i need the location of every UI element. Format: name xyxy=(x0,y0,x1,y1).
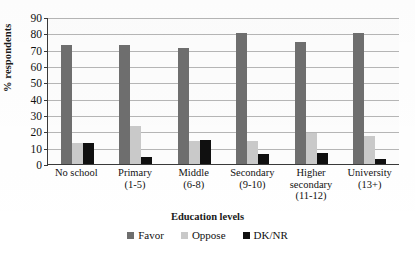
y-axis-tick-label: 70 xyxy=(31,44,43,56)
y-axis-tick-label: 40 xyxy=(31,93,43,105)
bar-group xyxy=(224,18,283,164)
bar-group xyxy=(107,18,166,164)
bar-dknr xyxy=(83,143,94,164)
bar-favor xyxy=(295,42,306,165)
bar-favor xyxy=(236,33,247,164)
y-axis-tick-label: 30 xyxy=(31,110,43,122)
chart-legend: FavorOpposeDK/NR xyxy=(0,229,415,241)
legend-label: Favor xyxy=(138,229,164,241)
plot-area: 0102030405060708090 xyxy=(47,18,399,165)
bar-chart: % respondents 0102030405060708090 No sch… xyxy=(0,0,415,253)
bar-oppose xyxy=(364,136,375,164)
y-axis-tick-label: 60 xyxy=(31,61,43,73)
legend-swatch-icon xyxy=(127,232,134,239)
bar-oppose xyxy=(130,126,141,164)
bar-oppose xyxy=(306,133,317,164)
bar-group xyxy=(165,18,224,164)
x-axis-tick-label: University(13+) xyxy=(340,167,399,202)
x-axis-tick-label: Secondary(9-10) xyxy=(223,167,282,202)
y-axis-tick-label: 80 xyxy=(31,28,43,40)
legend-item: Oppose xyxy=(181,229,226,241)
x-axis-tick-label: Middle(6-8) xyxy=(164,167,223,202)
legend-item: Favor xyxy=(127,229,164,241)
y-axis-tick-label: 50 xyxy=(31,77,43,89)
bar-oppose xyxy=(72,143,83,164)
bar-oppose xyxy=(189,141,200,164)
bar-dknr xyxy=(375,159,386,164)
y-axis-tick-label: 90 xyxy=(31,12,43,24)
y-axis-tick-mark xyxy=(44,165,48,166)
legend-label: Oppose xyxy=(192,229,226,241)
bar-dknr xyxy=(141,157,152,164)
legend-label: DK/NR xyxy=(254,229,288,241)
bar-dknr xyxy=(200,140,211,165)
x-axis-title: Education levels xyxy=(0,211,415,222)
y-axis-tick-label: 10 xyxy=(31,142,43,154)
bar-group xyxy=(341,18,400,164)
legend-item: DK/NR xyxy=(243,229,288,241)
y-axis-tick-label: 0 xyxy=(36,159,42,171)
bar-group xyxy=(48,18,107,164)
y-axis-tick-label: 20 xyxy=(31,126,43,138)
x-axis-tick-label: No school xyxy=(47,167,106,202)
legend-swatch-icon xyxy=(243,232,250,239)
bar-favor xyxy=(353,33,364,164)
legend-swatch-icon xyxy=(181,232,188,239)
bar-groups xyxy=(48,18,399,164)
y-axis-title: % respondents xyxy=(2,24,13,93)
bar-favor xyxy=(178,48,189,164)
bar-favor xyxy=(119,45,130,164)
bar-dknr xyxy=(258,154,269,164)
x-axis-tick-labels: No schoolPrimary(1-5)Middle(6-8)Secondar… xyxy=(47,167,399,202)
bar-oppose xyxy=(247,141,258,164)
bar-favor xyxy=(61,45,72,164)
bar-dknr xyxy=(317,153,328,164)
x-axis-tick-label: Primary(1-5) xyxy=(106,167,165,202)
x-axis-tick-label: Highersecondary(11-12) xyxy=(282,167,341,202)
bar-group xyxy=(282,18,341,164)
